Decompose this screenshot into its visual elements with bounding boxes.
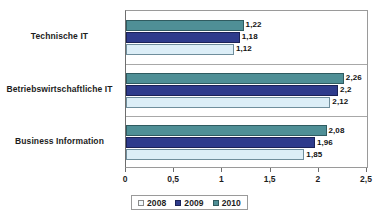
bar-value-label: 1,85 [306, 150, 322, 159]
bar-value-label: 2,2 [340, 85, 351, 94]
bar-value-label: 2,26 [346, 73, 362, 82]
bar-2008 [126, 44, 234, 55]
bar-2008 [126, 149, 304, 160]
axis-tick [318, 168, 319, 172]
axis-tick [173, 168, 174, 172]
category-separator [126, 64, 367, 65]
axis-tick-label: 0 [123, 174, 128, 184]
legend-label: 2009 [184, 198, 203, 208]
axis-tick-label: 0,5 [167, 174, 179, 184]
axis-tick-label: 1,5 [264, 174, 276, 184]
category-axis-labels: Technische ITBetriebswirtschaftliche ITB… [0, 10, 122, 168]
legend-swatch-icon [213, 200, 219, 206]
value-axis: 00,511,522,5 [125, 168, 368, 173]
bar-value-label: 2,08 [329, 126, 345, 135]
bar-value-label: 1,18 [242, 32, 258, 41]
bar-2010 [126, 125, 327, 136]
bar-2009 [126, 137, 315, 148]
bar-2009 [126, 32, 240, 43]
bar-chart: Technische ITBetriebswirtschaftliche ITB… [0, 0, 392, 217]
axis-tick-label: 1 [219, 174, 224, 184]
category-label: Business Information [0, 136, 119, 147]
axis-tick-label: 2 [315, 174, 320, 184]
legend-swatch-icon [175, 200, 181, 206]
category-label: Technische IT [0, 31, 119, 42]
axis-tick-label: 2,5 [360, 174, 372, 184]
bar-value-label: 1,22 [246, 20, 262, 29]
legend-label: 2008 [147, 198, 166, 208]
bar-value-label: 1,12 [236, 44, 252, 53]
category-separator [126, 116, 367, 117]
axis-tick [366, 168, 367, 172]
category-label: Betriebswirtschaftliche IT [0, 84, 119, 95]
bar-2010 [126, 20, 244, 31]
axis-tick [221, 168, 222, 172]
legend-item-2009[interactable]: 2009 [175, 198, 203, 208]
bar-value-label: 2,12 [332, 97, 348, 106]
legend-swatch-icon [138, 200, 144, 206]
legend-item-2008[interactable]: 2008 [138, 198, 166, 208]
axis-tick [125, 168, 126, 172]
axis-tick [270, 168, 271, 172]
bar-2008 [126, 97, 330, 108]
chart-legend: 200820092010 [131, 195, 248, 210]
legend-label: 2010 [222, 198, 241, 208]
legend-item-2010[interactable]: 2010 [213, 198, 241, 208]
plot-area: 1,221,181,122,262,22,122,081,961,85 [125, 10, 368, 168]
bar-value-label: 1,96 [317, 138, 333, 147]
bar-2009 [126, 85, 338, 96]
bar-2010 [126, 73, 344, 84]
